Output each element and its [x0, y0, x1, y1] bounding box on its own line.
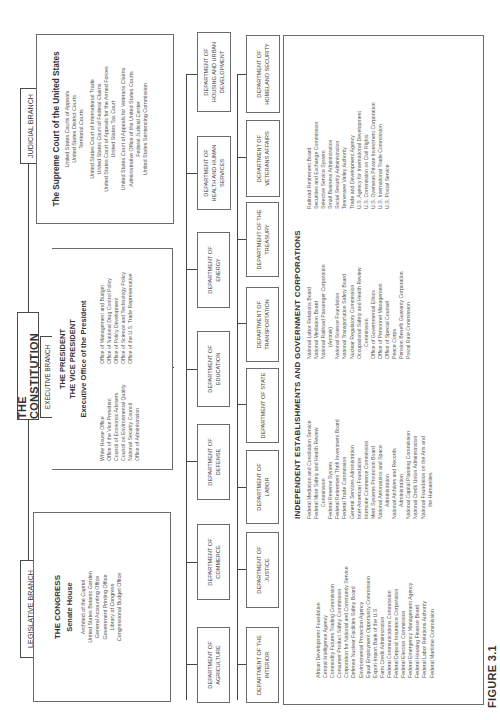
legislative-item: Library of Congress	[109, 513, 116, 701]
independent-item: (Amtrak)	[327, 264, 334, 359]
judicial-item: Administrative Office of the United Stat…	[128, 35, 135, 223]
executive-branch-label: EXECUTIVE BRANCH	[44, 345, 51, 409]
independent-item: Farm Credit Administration	[379, 566, 386, 678]
eop-item: Office of the U.S. Trade Representative	[127, 272, 134, 364]
legislative-item: United States Botanic Garden	[87, 513, 94, 701]
independent-item: National Transportation Safety Board	[341, 264, 348, 359]
independent-item: National Archives and Records	[391, 419, 398, 519]
department-justice: DEPARTMENT OF JUSTICE	[246, 532, 279, 608]
independent-item: Administration	[398, 419, 405, 519]
independent-item: National Railroad Passenger Corporation	[320, 264, 327, 359]
independent-item: Consumer Product Safety Commission	[336, 566, 343, 678]
dept-row2-stem	[237, 404, 246, 405]
independent-item: Selective Service System	[320, 102, 327, 209]
independent-item: Railroad Retirement Board	[306, 102, 313, 209]
independent-item: Corporation for National and Community S…	[343, 566, 350, 678]
legislative-box: THE CONGRESS Senate House Architect of t…	[33, 512, 171, 702]
judicial-item: United States Courts of Appeals	[64, 35, 71, 223]
judicial-item: United States Court of Appeals for Veter…	[120, 35, 127, 223]
independent-item: U.S. Agency for International Developmen…	[356, 102, 363, 209]
independent-item: Nuclear Regulatory Commission	[349, 264, 356, 359]
independent-item: Small Business Administration	[327, 102, 334, 209]
independent-item: Federal Reserve System	[327, 419, 334, 519]
judicial-branch-label: JUDICIAL BRANCH	[26, 94, 35, 158]
judicial-item: United States Court of Federal Claims	[96, 35, 103, 223]
independent-item: National Aeronautics and Space	[377, 419, 384, 519]
department-agriculture: DEPARTMENT OF AGRICULTURE	[197, 627, 230, 703]
independent-item: Environmental Protection Agency	[358, 566, 365, 678]
dept-row2-stem	[237, 569, 246, 570]
independent-item: Office of Personnel Management	[377, 264, 384, 359]
independent-item: Federal Communications Commission	[386, 566, 393, 678]
independent-item: Occupational Safety and Health Review	[356, 264, 363, 359]
independent-item: Federal Election Commission	[400, 566, 407, 678]
judicial-item: United States District Courts	[71, 35, 78, 223]
independent-item: Federal Maritime Commission	[429, 566, 436, 678]
independent-item: Commission	[320, 419, 327, 519]
independent-item: Federal Mine Safety and Health Review	[313, 419, 320, 519]
judicial-item: United States Court of Appeals for the A…	[103, 35, 110, 223]
constitution-label: THE CONSTITUTION	[16, 313, 40, 419]
independent-item: Office of Governmental Ethics	[370, 264, 377, 359]
executive-box: THE PRESIDENT THE VICE PRESIDENT Executi…	[52, 248, 173, 470]
independent-item: Securities and Exchange Commission	[313, 102, 320, 209]
legislative-item: Government Printing Office	[102, 513, 109, 701]
independent-item: U.S. Overseas Private Investment Corpora…	[370, 102, 377, 209]
eop-item: Office of National Drug Control Policy	[106, 272, 113, 364]
independent-item: U.S. Commission on Civil Rights	[363, 102, 370, 209]
constitution-box: THE CONSTITUTION	[17, 312, 39, 420]
judicial-item: United States Sentencing Commission	[142, 35, 149, 223]
independent-item: U.S. International Trade Commission	[377, 102, 384, 209]
independent-item: Trade and Development Agency	[349, 102, 356, 209]
legislative-item: General Accounting Office	[94, 513, 101, 701]
independent-item: Federal Labor Relations Authority	[421, 566, 428, 678]
supreme-court-title: The Supreme Court of the United States	[51, 35, 63, 223]
legislative-item: Architect of the Capitol	[80, 513, 87, 701]
dept-row1-hud-stem	[186, 74, 197, 75]
independent-item: National Credit Union Administration	[412, 419, 419, 519]
eop-item: Office of Administration	[134, 384, 141, 461]
independent-item: Administration	[384, 419, 391, 519]
independent-item: National Science Foundation	[334, 264, 341, 359]
eop-item: Council on Environmental Quality	[120, 384, 127, 461]
independent-item: Federal Housing Finance Board	[414, 566, 421, 678]
congress-subtitle: Senate House	[64, 513, 76, 701]
independent-item: National Foundation on the Arts and	[420, 419, 427, 519]
dept-row2-stem	[237, 323, 246, 324]
dept-row2-stem	[237, 487, 246, 488]
independent-item: Interstate Commerce Commission	[363, 419, 370, 519]
department-labor: DEPARTMENT OF LABOR	[246, 450, 279, 524]
judicial-box: The Supreme Court of the United States U…	[36, 34, 174, 224]
dept-row2-stem	[237, 157, 246, 158]
department-energy: DEPARTMENT OF ENERGY	[197, 232, 230, 308]
independent-item: the Humanities	[427, 419, 434, 519]
dept-row2-spine	[237, 75, 238, 700]
independent-item: General Services Administration	[349, 419, 356, 519]
legislative-item: Congressional Budget Office	[116, 513, 123, 701]
department-state: DEPARTMENT OF STATE	[246, 368, 279, 443]
independent-item: Commission	[363, 264, 370, 359]
independent-item: Inter-American Foundation	[356, 419, 363, 519]
dept-row1-hhs-stem	[186, 173, 197, 174]
independent-item: Federal Mediation and Conciliation Servi…	[306, 419, 313, 519]
judicial-item: United States Tax Court	[110, 35, 117, 223]
department-transportation: DEPARTMENT OF TRANSPORTATION	[246, 287, 279, 362]
dept-row2-stem	[237, 239, 246, 240]
dept-row1-energy-stem	[186, 269, 197, 270]
department-commerce: DEPARTMENT OF COMMERCE	[197, 524, 230, 600]
org-chart-rotated-frame: THE CONSTITUTION LEGISLATIVE BRANCH THE …	[0, 0, 500, 720]
independent-item: Social Security Administration	[334, 102, 341, 209]
department-hud: DEPARTMENT OF HOUSING AND URBAN DEVELOPM…	[197, 32, 231, 112]
independent-item: Tennessee Valley Authority	[341, 102, 348, 209]
department-homeland-security: DEPARTMENT OF HOMELAND SECURITY	[246, 35, 280, 113]
president-title: THE PRESIDENT	[58, 249, 68, 469]
independent-establishments-box: INDEPENDENT ESTABLISHMENTS AND GOVERNMEN…	[283, 35, 484, 705]
judicial-item: Territorial Courts	[78, 35, 85, 223]
independent-item: Pension Benefit Guaranty Corporation	[398, 264, 405, 359]
dept-row1-comm-stem	[186, 562, 197, 563]
judicial-item: United States Court of International Tra…	[89, 35, 96, 223]
independent-title: INDEPENDENT ESTABLISHMENTS AND GOVERNMEN…	[293, 230, 302, 519]
dept-row2-stem	[237, 74, 246, 75]
judicial-item: Federal Judicial Center	[135, 35, 142, 223]
independent-item: Federal Trade Commission	[341, 419, 348, 519]
